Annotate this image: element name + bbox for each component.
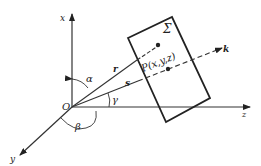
y-axis xyxy=(20,107,72,155)
origin-label: O xyxy=(62,101,70,112)
direction-cosine-diagram: x z y O Σ P(x,y,z) r s k α γ β xyxy=(0,0,261,166)
y-axis-label: y xyxy=(9,154,16,164)
plane-label: Σ xyxy=(162,22,172,36)
k-plane-intersection-point xyxy=(166,67,170,71)
beta-label: β xyxy=(74,121,81,132)
point-p xyxy=(156,43,160,47)
k-label: k xyxy=(223,44,229,54)
x-axis-label: x xyxy=(60,13,65,23)
z-axis-label: z xyxy=(241,110,247,119)
gamma-arc xyxy=(108,93,110,107)
alpha-label: α xyxy=(86,73,93,84)
r-label: r xyxy=(113,64,119,74)
gamma-label: γ xyxy=(112,94,118,105)
point-label: P(x,y,z) xyxy=(139,50,178,74)
s-label: s xyxy=(125,78,130,88)
